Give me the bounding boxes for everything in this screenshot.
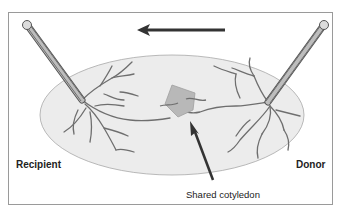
placenta [40, 55, 304, 175]
shared-cotyledon-label: Shared cotyledon [186, 189, 260, 200]
donor-cord-end-icon [320, 21, 329, 30]
recipient-label: Recipient [16, 159, 61, 170]
recipient-cord-end-icon [23, 21, 32, 30]
diagram-canvas [0, 0, 341, 219]
donor-label: Donor [296, 159, 325, 170]
